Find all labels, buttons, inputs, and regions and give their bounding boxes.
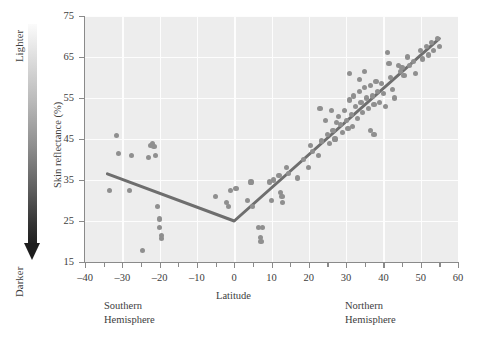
data-point bbox=[146, 155, 151, 160]
data-point bbox=[228, 188, 233, 193]
gradient-top-label: Lighter bbox=[14, 30, 25, 62]
x-tick-label: 20 bbox=[289, 272, 329, 283]
data-point bbox=[308, 143, 313, 148]
data-point bbox=[399, 65, 404, 70]
y-tick bbox=[79, 16, 84, 17]
y-tick-label: 75 bbox=[44, 10, 74, 21]
data-point bbox=[411, 59, 416, 64]
x-tick-minor bbox=[327, 263, 328, 267]
data-point bbox=[327, 141, 332, 146]
data-point bbox=[371, 102, 376, 107]
data-point bbox=[279, 194, 284, 199]
data-point bbox=[248, 179, 253, 184]
northern-hemisphere-note: Northern Hemisphere bbox=[345, 299, 396, 327]
x-tick-major bbox=[346, 263, 347, 268]
y-tick-label: 25 bbox=[44, 215, 74, 226]
data-point bbox=[420, 56, 425, 61]
x-tick-major bbox=[160, 263, 161, 268]
arrow-down-icon bbox=[24, 243, 40, 260]
data-point bbox=[405, 54, 410, 59]
data-point bbox=[413, 71, 418, 76]
data-point bbox=[344, 118, 349, 123]
x-tick-label: 0 bbox=[214, 272, 254, 283]
x-tick-minor bbox=[402, 263, 403, 267]
skin-reflectance-latitude-chart: Lighter Darker Skin reflectance (%) 1525… bbox=[0, 0, 477, 341]
x-tick-major bbox=[85, 263, 86, 268]
y-tick bbox=[79, 98, 84, 99]
data-point bbox=[301, 157, 306, 162]
data-point bbox=[364, 95, 369, 100]
x-tick-minor bbox=[104, 263, 105, 267]
data-point bbox=[260, 225, 265, 230]
x-tick-label: –20 bbox=[140, 272, 180, 283]
data-point bbox=[426, 52, 431, 57]
data-point bbox=[351, 93, 356, 98]
y-tick bbox=[79, 139, 84, 140]
data-point bbox=[258, 239, 263, 244]
data-point bbox=[383, 104, 388, 109]
data-point bbox=[401, 73, 406, 78]
data-point bbox=[386, 61, 391, 66]
x-tick-minor bbox=[141, 263, 142, 267]
data-point bbox=[355, 116, 360, 121]
gradient-bar bbox=[28, 24, 37, 246]
data-point bbox=[392, 95, 397, 100]
y-tick-label: 55 bbox=[44, 92, 74, 103]
y-tick bbox=[79, 180, 84, 181]
data-point bbox=[245, 198, 250, 203]
data-point bbox=[107, 188, 112, 193]
x-tick-major bbox=[421, 263, 422, 268]
x-tick-label: 60 bbox=[438, 272, 477, 283]
x-tick-minor bbox=[216, 263, 217, 267]
data-point bbox=[317, 106, 322, 111]
y-tick-label: 45 bbox=[44, 133, 74, 144]
data-point bbox=[159, 236, 164, 241]
x-tick-label: –40 bbox=[65, 272, 105, 283]
data-point bbox=[377, 100, 382, 105]
trend-line bbox=[85, 16, 458, 262]
x-axis-title: Latitude bbox=[0, 290, 477, 301]
data-point bbox=[373, 79, 378, 84]
data-point bbox=[332, 136, 337, 141]
southern-hemisphere-note: Southern Hemisphere bbox=[104, 299, 155, 327]
data-point bbox=[157, 216, 162, 221]
data-point bbox=[342, 108, 347, 113]
data-point bbox=[151, 144, 156, 149]
data-point bbox=[295, 175, 300, 180]
y-tick bbox=[79, 57, 84, 58]
data-point bbox=[310, 149, 315, 154]
data-point bbox=[366, 106, 371, 111]
x-tick-minor bbox=[290, 263, 291, 267]
x-tick-major bbox=[122, 263, 123, 268]
data-point bbox=[157, 225, 162, 230]
data-point bbox=[370, 93, 375, 98]
y-tick-label: 65 bbox=[44, 51, 74, 62]
x-tick-label: –30 bbox=[102, 272, 142, 283]
x-tick-label: 50 bbox=[401, 272, 441, 283]
x-tick-label: 10 bbox=[252, 272, 292, 283]
x-tick-minor bbox=[365, 263, 366, 267]
data-point bbox=[358, 100, 363, 105]
x-tick-major bbox=[458, 263, 459, 268]
y-tick bbox=[79, 262, 84, 263]
plot-area bbox=[85, 16, 458, 262]
data-point bbox=[357, 77, 362, 82]
x-tick-label: 30 bbox=[326, 272, 366, 283]
y-tick-label: 15 bbox=[44, 256, 74, 267]
lightness-gradient-legend bbox=[22, 24, 44, 268]
data-point bbox=[233, 186, 238, 191]
x-axis-title-text: Latitude bbox=[216, 290, 251, 301]
x-tick-minor bbox=[439, 263, 440, 267]
data-point bbox=[329, 108, 334, 113]
data-point bbox=[353, 104, 358, 109]
y-tick bbox=[79, 221, 84, 222]
x-tick-major bbox=[309, 263, 310, 268]
x-tick-minor bbox=[178, 263, 179, 267]
x-tick-major bbox=[197, 263, 198, 268]
x-tick-major bbox=[383, 263, 384, 268]
y-axis-line bbox=[84, 16, 85, 263]
x-tick-label: 40 bbox=[363, 272, 403, 283]
data-point bbox=[316, 153, 321, 158]
x-tick-major bbox=[234, 263, 235, 268]
x-tick-major bbox=[272, 263, 273, 268]
